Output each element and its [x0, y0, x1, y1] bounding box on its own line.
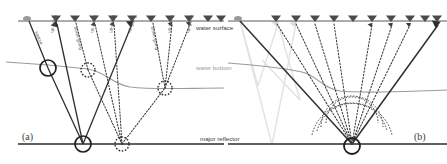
label-major-reflector: major reflector: [200, 135, 240, 142]
source-marker-a: [23, 16, 31, 21]
source-marker-b: [234, 16, 242, 21]
label-water-bottom: water bottom: [195, 64, 232, 71]
seismic-ray-diagram: source up-going down-going up-going up-g…: [0, 0, 447, 164]
label-water-surface: water surface: [195, 24, 234, 31]
panel-label-a: (a): [22, 131, 33, 143]
panel-label-b: (b): [414, 131, 426, 143]
figure-container: source up-going down-going up-going up-g…: [0, 0, 447, 164]
